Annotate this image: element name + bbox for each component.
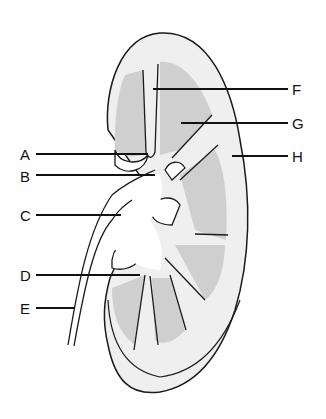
label-D: D (20, 267, 31, 284)
label-F: F (292, 81, 301, 98)
label-B: B (20, 168, 30, 185)
label-E: E (20, 300, 30, 317)
label-H: H (292, 148, 303, 165)
label-A: A (20, 146, 30, 163)
label-C: C (20, 207, 31, 224)
label-G: G (292, 115, 304, 132)
kidney-diagram: A B C D E F G H (0, 0, 326, 419)
